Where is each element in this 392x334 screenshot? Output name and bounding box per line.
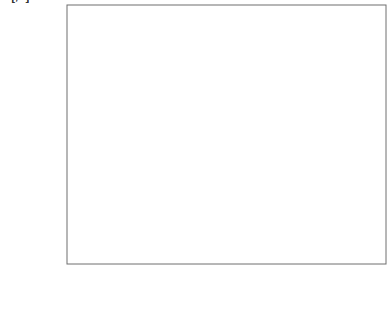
plot-frame — [67, 5, 386, 264]
scatter-plot: mnorm[,1] mnorm[,2] — [0, 0, 392, 334]
y-axis-title: mnorm[,2] — [0, 0, 29, 3]
